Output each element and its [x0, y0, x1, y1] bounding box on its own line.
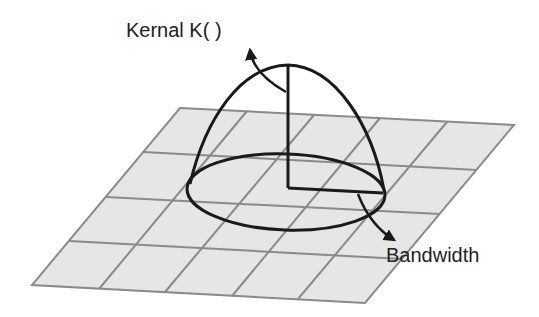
- grid-plane: [32, 108, 514, 303]
- kernel-diagram: [0, 0, 539, 317]
- kernel-label: Kernal K( ): [126, 20, 222, 40]
- kernel-arrow: [250, 50, 286, 92]
- bandwidth-label: Bandwidth: [386, 245, 479, 265]
